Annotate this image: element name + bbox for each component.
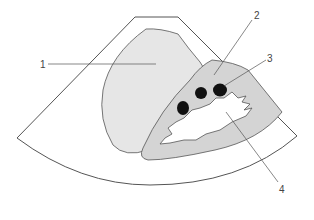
label-2: 2: [254, 10, 260, 21]
ultrasound-diagram: 1 2 3 4: [0, 0, 314, 220]
label-4: 4: [279, 184, 285, 195]
label-3: 3: [267, 53, 273, 64]
label-1: 1: [40, 59, 46, 70]
